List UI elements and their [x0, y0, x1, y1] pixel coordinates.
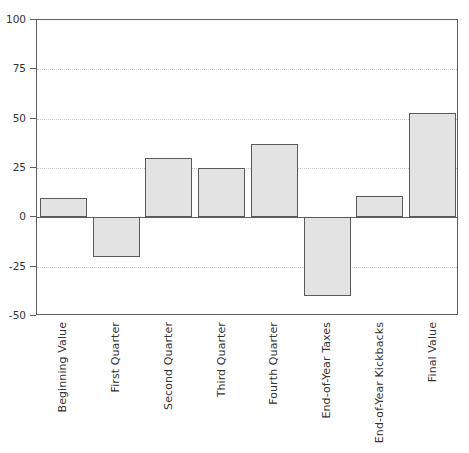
- bar: [93, 217, 140, 256]
- gridline: [37, 267, 457, 268]
- bar: [198, 168, 245, 217]
- bar: [356, 196, 403, 218]
- y-axis-tick-label: 0: [19, 210, 30, 222]
- y-axis-tick: [30, 315, 36, 316]
- x-axis-tick-label: First Quarter: [109, 322, 122, 392]
- y-axis-tick-label: 25: [13, 161, 30, 173]
- bar-chart: 1007550250-25-50 Beginning ValueFirst Qu…: [0, 0, 469, 453]
- x-axis-tick-label: Fourth Quarter: [267, 322, 280, 405]
- x-axis-tick-label: Third Quarter: [214, 322, 227, 397]
- y-axis-tick-label: 50: [13, 112, 30, 124]
- x-axis-tick-label: Second Quarter: [161, 322, 174, 410]
- plot-area: [36, 19, 458, 315]
- gridline: [37, 168, 457, 169]
- x-axis-tick-label: Final Value: [425, 322, 438, 382]
- chart-title: [0, 0, 469, 1]
- gridline: [37, 119, 457, 120]
- x-axis-tick-label: Beginning Value: [56, 322, 69, 413]
- y-axis-tick-label: 75: [13, 62, 30, 74]
- bar: [251, 144, 298, 217]
- y-axis-tick-label: -50: [9, 309, 30, 321]
- bar: [40, 198, 87, 218]
- x-axis-tick-label: End-of-Year Kickbacks: [372, 322, 385, 443]
- x-axis-tick-label: End-of-Year Taxes: [320, 322, 333, 419]
- y-axis-tick-label: 100: [6, 13, 30, 25]
- bar: [145, 158, 192, 217]
- gridline: [37, 69, 457, 70]
- bar: [304, 217, 351, 296]
- bar: [409, 113, 456, 218]
- y-axis-tick-label: -25: [9, 260, 30, 272]
